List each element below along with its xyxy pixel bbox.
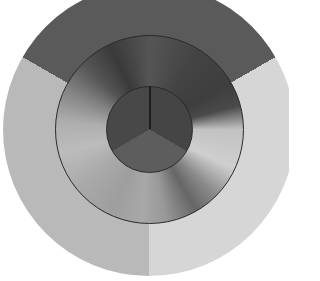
inner-divider-line [149, 86, 151, 129]
